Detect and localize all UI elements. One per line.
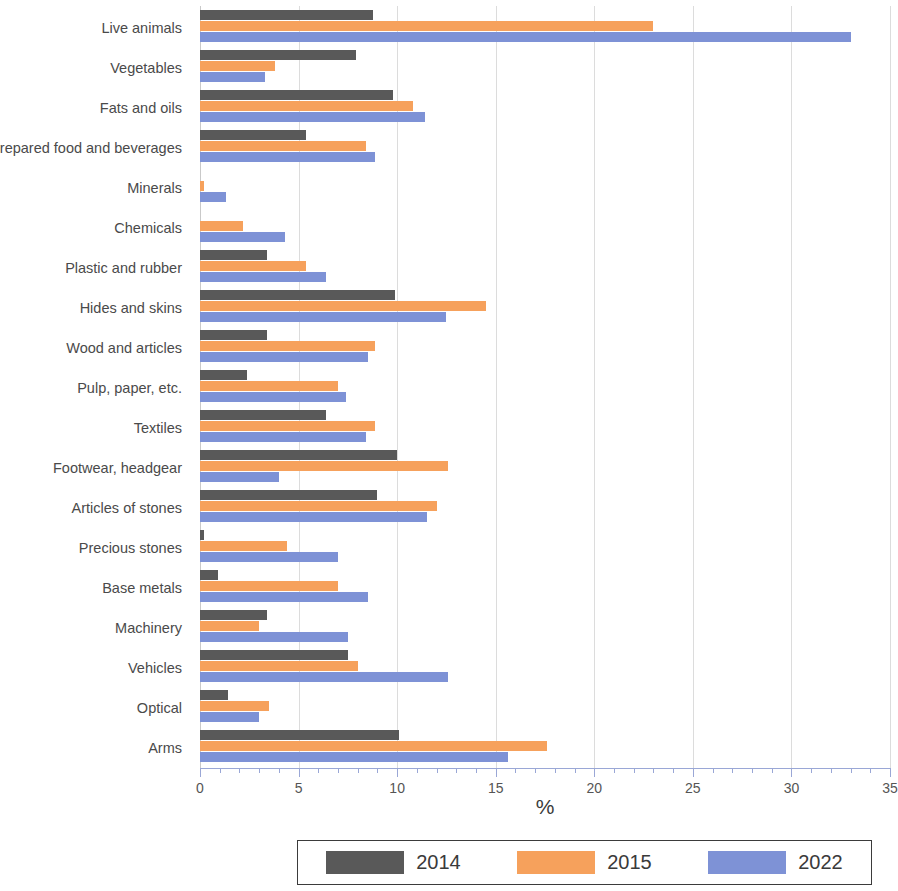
axis-tick [417, 768, 418, 773]
axis-tick [772, 768, 773, 773]
axis-tick-label: 15 [488, 780, 504, 796]
bar-2015 [200, 181, 204, 191]
axis-tick [614, 768, 615, 773]
axis-line [200, 768, 890, 769]
bar-2022 [200, 112, 425, 122]
bar-2014 [200, 610, 267, 620]
axis-tick [496, 768, 497, 777]
axis-tick [318, 768, 319, 773]
bar-2014 [200, 330, 267, 340]
legend-item[interactable]: 2022 [708, 851, 843, 874]
category-label: Precious stones [79, 528, 182, 568]
bar-group [200, 368, 890, 408]
bar-2022 [200, 552, 338, 562]
bar-2022 [200, 432, 366, 442]
bar-2022 [200, 72, 265, 82]
axis-tick-label: 0 [196, 780, 204, 796]
category-label: Vehicles [128, 648, 182, 688]
bar-2022 [200, 592, 368, 602]
legend-item[interactable]: 2014 [326, 851, 461, 874]
bar-2014 [200, 290, 395, 300]
bar-2014 [200, 690, 228, 700]
bar-group [200, 528, 890, 568]
legend-label: 2022 [798, 851, 843, 874]
bar-group [200, 408, 890, 448]
bar-2014 [200, 90, 393, 100]
bar-2014 [200, 370, 247, 380]
axis-tick [535, 768, 536, 773]
bar-2014 [200, 410, 326, 420]
bar-2015 [200, 541, 287, 551]
bar-2015 [200, 581, 338, 591]
bar-2014 [200, 250, 267, 260]
plot-area [200, 6, 890, 768]
axis-tick [377, 768, 378, 773]
bar-2015 [200, 501, 437, 511]
axis-tick [673, 768, 674, 773]
value-axis: 05101520253035 [200, 768, 890, 808]
axis-tick [515, 768, 516, 773]
bar-group [200, 728, 890, 768]
bar-2022 [200, 152, 375, 162]
axis-tick-label: 5 [295, 780, 303, 796]
bar-2014 [200, 650, 348, 660]
chart-legend: 201420152022 [297, 840, 872, 885]
axis-tick [791, 768, 792, 777]
bar-group [200, 48, 890, 88]
legend-label: 2015 [607, 851, 652, 874]
bar-2015 [200, 141, 366, 151]
gridline-35 [890, 6, 891, 768]
axis-tick [653, 768, 654, 773]
bar-2015 [200, 301, 486, 311]
bar-2022 [200, 232, 285, 242]
category-label: Chemicals [114, 208, 182, 248]
legend-swatch [517, 851, 595, 874]
axis-tick [476, 768, 477, 773]
bar-group [200, 488, 890, 528]
bar-group [200, 328, 890, 368]
bar-2014 [200, 490, 377, 500]
category-label: Hides and skins [80, 288, 182, 328]
axis-tick [397, 768, 398, 777]
bar-group [200, 288, 890, 328]
bar-2022 [200, 472, 279, 482]
bar-group [200, 568, 890, 608]
axis-tick [437, 768, 438, 773]
bar-2015 [200, 621, 259, 631]
axis-tick [279, 768, 280, 773]
bar-2014 [200, 130, 306, 140]
bar-2022 [200, 712, 259, 722]
legend-swatch [708, 851, 786, 874]
category-label: Wood and articles [66, 328, 182, 368]
bar-2022 [200, 752, 508, 762]
axis-tick [752, 768, 753, 773]
axis-tick [594, 768, 595, 777]
category-label: Articles of stones [72, 488, 182, 528]
category-label: Optical [137, 688, 182, 728]
axis-tick [200, 768, 201, 777]
bar-group [200, 88, 890, 128]
axis-tick [259, 768, 260, 773]
category-label: Plastic and rubber [65, 248, 182, 288]
bar-group [200, 128, 890, 168]
bar-2015 [200, 421, 375, 431]
axis-tick [732, 768, 733, 773]
bar-2015 [200, 701, 269, 711]
axis-tick [831, 768, 832, 773]
bar-2015 [200, 101, 413, 111]
bar-2022 [200, 192, 226, 202]
bar-2022 [200, 512, 427, 522]
axis-tick [338, 768, 339, 773]
axis-tick [811, 768, 812, 773]
axis-tick [358, 768, 359, 773]
bar-rows [200, 6, 890, 768]
category-axis: Live animalsVegetablesFats and oilsPrepa… [0, 6, 190, 768]
bar-2015 [200, 261, 306, 271]
category-label: Fats and oils [100, 88, 182, 128]
bar-2022 [200, 352, 368, 362]
legend-item[interactable]: 2015 [517, 851, 652, 874]
bar-2014 [200, 530, 204, 540]
legend-label: 2014 [416, 851, 461, 874]
axis-tick-label: 20 [586, 780, 602, 796]
